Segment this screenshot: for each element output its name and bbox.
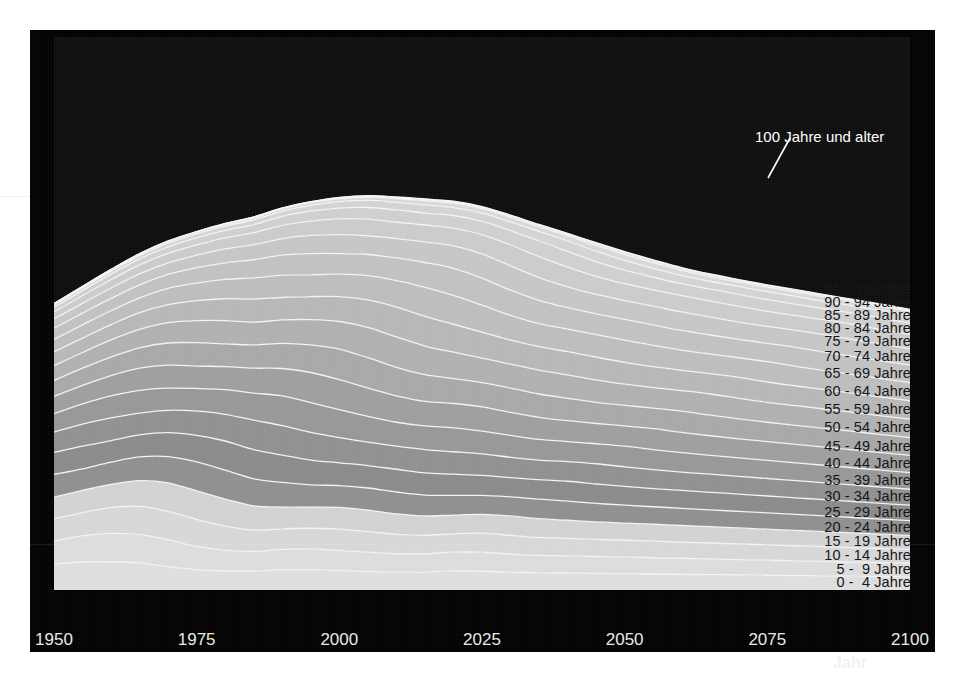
x-tick-2000: 2000 bbox=[320, 630, 358, 650]
series-label-9: 45 - 49 Jahre bbox=[824, 439, 911, 454]
x-tick-2050: 2050 bbox=[606, 630, 644, 650]
series-label-7: 35 - 39 Jahre bbox=[824, 473, 911, 488]
x-axis-title: Jahr bbox=[833, 654, 867, 672]
figure-canvas: 100 Jahre und alter 95 - 99 Jahre90 - 94… bbox=[0, 0, 965, 684]
series-label-14: 70 - 74 Jahre bbox=[824, 349, 911, 364]
series-label-11: 55 - 59 Jahre bbox=[824, 402, 911, 417]
chart-panel: 100 Jahre und alter 95 - 99 Jahre90 - 94… bbox=[30, 30, 935, 652]
series-label-10: 50 - 54 Jahre bbox=[824, 420, 911, 435]
series-label-13: 65 - 69 Jahre bbox=[824, 366, 911, 381]
x-tick-1975: 1975 bbox=[178, 630, 216, 650]
series-label-12: 60 - 64 Jahre bbox=[824, 384, 911, 399]
x-tick-1950: 1950 bbox=[35, 630, 73, 650]
x-tick-2025: 2025 bbox=[463, 630, 501, 650]
scan-seam-line-left bbox=[0, 196, 30, 197]
x-tick-2100: 2100 bbox=[891, 630, 929, 650]
series-label-15: 75 - 79 Jahre bbox=[824, 334, 911, 349]
callout-100-plus-label: 100 Jahre und alter bbox=[755, 128, 884, 145]
plot-area bbox=[54, 37, 910, 590]
series-label-5: 25 - 29 Jahre bbox=[824, 505, 911, 520]
series-label-8: 40 - 44 Jahre bbox=[824, 456, 911, 471]
series-label-0: 0 - 4 Jahre bbox=[836, 575, 911, 590]
series-label-6: 30 - 34 Jahre bbox=[824, 489, 911, 504]
x-tick-2075: 2075 bbox=[748, 630, 786, 650]
stacked-area-svg bbox=[54, 37, 910, 590]
